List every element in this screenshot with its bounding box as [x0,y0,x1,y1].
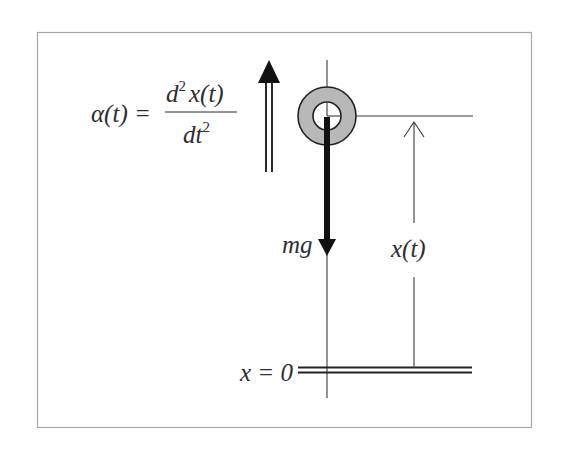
falling-mass-diagram: α(t) = d2x(t) dt2 mg x(t) x = 0 [0,0,563,453]
ground-label: x = 0 [239,359,293,386]
position-label: x(t) [390,235,426,263]
formula-lhs: α(t) = [91,100,151,128]
formula-numerator: d2x(t) [166,78,224,108]
gravity-force-label: mg [282,231,313,258]
